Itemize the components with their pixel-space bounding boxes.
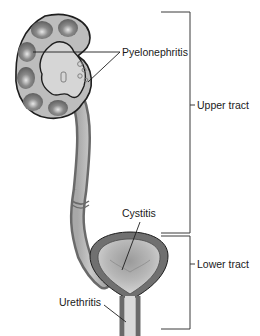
label-urethritis: Urethritis	[59, 297, 101, 308]
kidney	[16, 14, 92, 118]
bladder	[90, 232, 168, 300]
label-pyelonephritis: Pyelonephritis	[122, 47, 188, 58]
urethra	[122, 296, 138, 336]
urinary-tract-diagram: Pyelonephritis Upper tract Cystitis Lowe…	[0, 0, 260, 336]
label-lower-tract: Lower tract	[197, 259, 249, 270]
label-cystitis: Cystitis	[122, 208, 156, 219]
label-upper-tract: Upper tract	[197, 100, 249, 111]
